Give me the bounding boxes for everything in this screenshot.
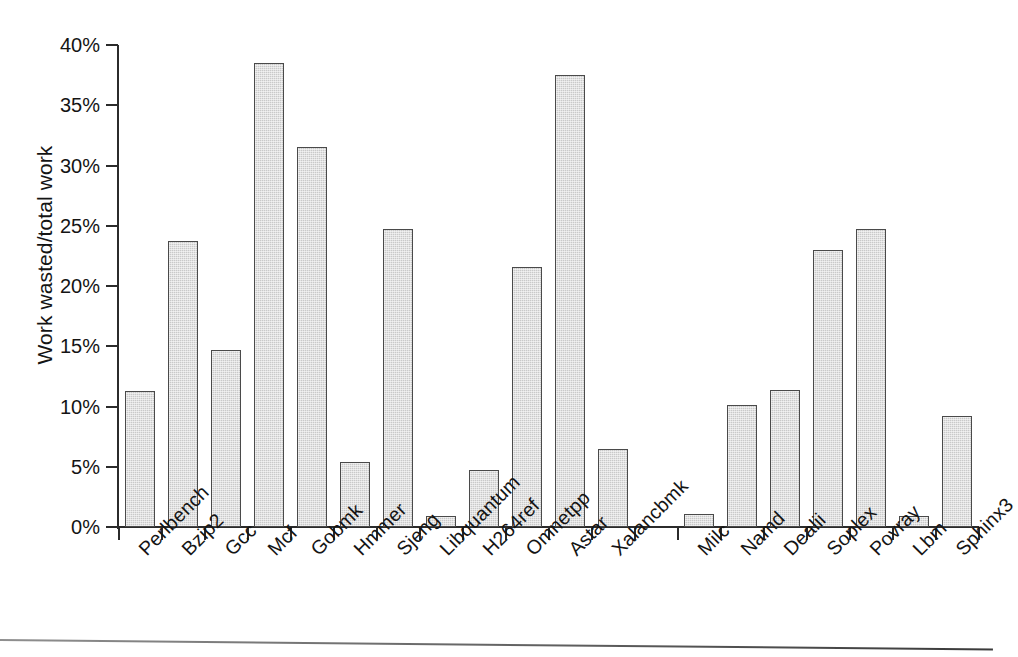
- y-axis-tick-label: 30%: [38, 154, 100, 177]
- y-axis-tick: [106, 406, 118, 408]
- y-axis-tick: [106, 165, 118, 167]
- y-axis-tick: [106, 466, 118, 468]
- plot-area: 0%5%10%15%20%25%30%35%40%: [118, 45, 978, 527]
- y-axis-tick-label: 5%: [38, 455, 100, 478]
- bar: [125, 391, 155, 527]
- bar: [254, 63, 284, 527]
- bar: [297, 147, 327, 527]
- y-axis-tick: [106, 285, 118, 287]
- bar: [211, 350, 241, 527]
- bar: [555, 75, 585, 527]
- bar: [727, 405, 757, 527]
- y-axis-tick-label: 15%: [38, 335, 100, 358]
- y-axis-tick-label: 40%: [38, 34, 100, 57]
- bar: [942, 416, 972, 527]
- y-axis-tick-label: 0%: [38, 516, 100, 539]
- x-axis-tick: [677, 527, 679, 540]
- bottom-divider: [0, 639, 993, 651]
- y-axis-tick: [106, 44, 118, 46]
- bar: [684, 514, 714, 527]
- y-axis-tick-label: 35%: [38, 94, 100, 117]
- y-axis-tick: [106, 225, 118, 227]
- bar: [856, 229, 886, 527]
- bar: [383, 229, 413, 527]
- y-axis-tick-label: 20%: [38, 275, 100, 298]
- y-axis-tick-label: 10%: [38, 395, 100, 418]
- y-axis-tick-label: 25%: [38, 214, 100, 237]
- y-axis-tick: [106, 526, 118, 528]
- y-axis-title: Work wasted/total work: [33, 105, 57, 405]
- y-axis-tick: [106, 104, 118, 106]
- bar: [813, 250, 843, 527]
- y-axis-tick: [106, 345, 118, 347]
- x-axis-tick: [118, 527, 120, 540]
